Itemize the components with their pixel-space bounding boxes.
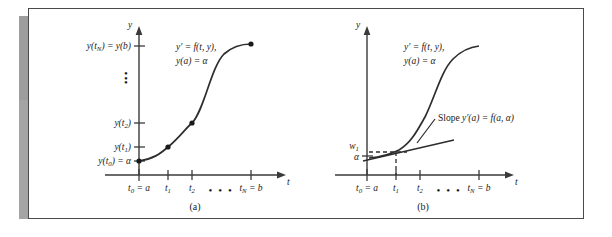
panel-b-horizontal-ellipsis: • • • bbox=[436, 184, 461, 196]
panel-b-equation: y′ = f(t, y), y(a) = α bbox=[404, 40, 444, 69]
panel-b-ytick-label-w1: w1 bbox=[317, 141, 359, 152]
ytick-text-t1: y(t1) bbox=[114, 142, 131, 152]
figure-frame: y t y′ = f(t, y), y(a) = α y(tN) = y(b) … bbox=[28, 8, 584, 219]
panel-a-ttick-label-t1: t1 bbox=[165, 183, 171, 194]
panel-a: y t y′ = f(t, y), y(a) = α y(tN) = y(b) … bbox=[29, 9, 307, 220]
panel-b-caption: (b) bbox=[403, 201, 443, 212]
panel-a-ttick-label-t0: t0 = a bbox=[128, 183, 150, 194]
panel-a-vertical-ellipsis: ••• bbox=[121, 71, 131, 85]
panel-a-caption: (a) bbox=[175, 201, 215, 212]
ytick-text-t2: y(t2) bbox=[114, 118, 131, 128]
panel-b-slope-leader-line bbox=[417, 119, 435, 143]
ytick-text-t0: y(t0) = α bbox=[98, 156, 131, 166]
panel-a-ytick-label-t1: y(t1) bbox=[27, 142, 131, 153]
panel-b-ttick-label-t2: t2 bbox=[417, 183, 423, 194]
panel-b-equation-line1: y′ = f(t, y), bbox=[404, 40, 444, 54]
panel-a-ytick-label-tN: y(tN) = y(b) bbox=[27, 41, 131, 52]
panel-b-ttick-label-t0: t0 = a bbox=[356, 183, 378, 194]
panel-b: y t y′ = f(t, y), y(a) = α Slope y′(a) =… bbox=[307, 9, 585, 220]
panel-b-slope-annotation: Slope y′(a) = f(a, α) bbox=[438, 113, 514, 124]
panel-a-horizontal-ellipsis: • • • bbox=[208, 184, 233, 196]
ytick-text-tN: y(tN) = y(b) bbox=[87, 41, 131, 51]
figure-root: y t y′ = f(t, y), y(a) = α y(tN) = y(b) … bbox=[0, 0, 612, 237]
panel-b-ttick-label-t1: t1 bbox=[393, 183, 399, 194]
panel-a-t-axis-label: t bbox=[287, 177, 290, 188]
panel-b-equation-line2: y(a) = α bbox=[404, 54, 444, 68]
panel-a-ytick-label-t2: y(t2) bbox=[27, 118, 131, 129]
panel-b-ytick-label-alpha: α bbox=[317, 152, 359, 163]
panel-a-ttick-label-t2: t2 bbox=[189, 183, 195, 194]
panel-a-equation-line2: y(a) = α bbox=[176, 54, 216, 68]
panel-a-y-axis-label: y bbox=[128, 20, 132, 31]
panel-b-ttick-label-tN: tN = b bbox=[467, 183, 490, 194]
panel-a-t-axis bbox=[105, 172, 286, 179]
panel-b-t-axis-label: t bbox=[515, 177, 518, 188]
panel-a-ytick-label-t0: y(t0) = α bbox=[27, 156, 131, 167]
panel-b-t-axis bbox=[335, 172, 514, 179]
panel-a-equation: y′ = f(t, y), y(a) = α bbox=[176, 40, 216, 69]
panel-b-y-axis-label: y bbox=[356, 20, 360, 31]
panel-a-ttick-label-tN: tN = b bbox=[239, 183, 262, 194]
panel-a-y-axis bbox=[136, 26, 143, 175]
panel-a-equation-line1: y′ = f(t, y), bbox=[176, 40, 216, 54]
